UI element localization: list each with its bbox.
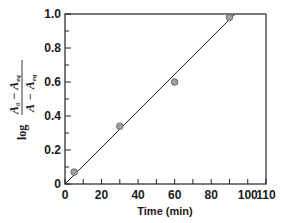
x-tick-label: 110 xyxy=(256,188,276,202)
data-point xyxy=(171,79,178,86)
y-axis: 00.20.40.60.81.0 xyxy=(44,7,71,191)
svg-text:log: log xyxy=(15,125,29,140)
x-tick-label: 60 xyxy=(168,188,182,202)
y-tick-label: 0.6 xyxy=(44,75,61,89)
y-axis-title: log A0−Aeq A−Aeq xyxy=(7,60,38,140)
fit-line xyxy=(65,14,235,184)
x-axis: 020406080100110 xyxy=(62,179,276,202)
data-point xyxy=(117,123,124,130)
x-tick-label: 100 xyxy=(238,188,258,202)
y-tick-label: 0 xyxy=(54,177,61,191)
x-tick-label: 0 xyxy=(62,188,69,202)
chart: 00.20.40.60.81.0 020406080100110 Time (m… xyxy=(0,0,282,223)
x-tick-label: 40 xyxy=(131,188,145,202)
y-tick-label: 0.4 xyxy=(44,109,61,123)
y-tick-label: 0.8 xyxy=(44,41,61,55)
data-points xyxy=(71,14,233,175)
data-point xyxy=(71,169,78,176)
svg-text:A−Aeq: A−Aeq xyxy=(23,74,38,113)
y-tick-label: 1.0 xyxy=(44,7,61,21)
data-point xyxy=(226,14,233,21)
plot-frame xyxy=(65,14,266,184)
y-tick-label: 0.2 xyxy=(44,143,61,157)
svg-text:A0−Aeq: A0−Aeq xyxy=(7,75,22,115)
x-tick-label: 80 xyxy=(205,188,219,202)
x-tick-label: 20 xyxy=(95,188,109,202)
x-axis-title: Time (min) xyxy=(137,205,193,217)
